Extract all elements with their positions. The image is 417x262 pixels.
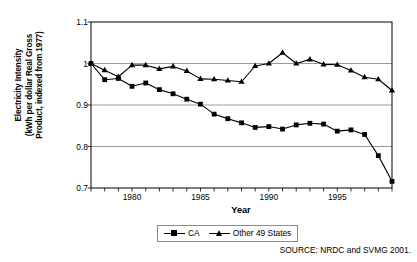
- x-tick-label: 1990: [260, 192, 279, 202]
- data-point-marker: [349, 128, 354, 133]
- data-point-marker: [253, 125, 258, 130]
- data-point-marker: [130, 84, 135, 89]
- x-tick-label: 1995: [328, 192, 347, 202]
- legend-marker-square-icon: [164, 229, 185, 238]
- data-point-marker: [307, 56, 313, 61]
- data-point-marker: [102, 77, 107, 82]
- legend-item-other-49-states[interactable]: Other 49 States: [209, 228, 292, 238]
- data-point-marker: [321, 122, 326, 127]
- data-point-marker: [279, 49, 285, 54]
- data-point-marker: [335, 129, 340, 134]
- data-point-marker: [225, 116, 230, 121]
- data-point-marker: [334, 61, 340, 66]
- source-note: SOURCE: NRDC and SVMG 2001.: [280, 245, 411, 255]
- x-axis-tick-labels: 1980 1985 1990 1995: [0, 192, 417, 206]
- x-tick-label: 1980: [123, 192, 142, 202]
- legend-item-ca[interactable]: CA: [164, 228, 200, 238]
- data-point-marker: [280, 127, 285, 132]
- data-point-marker: [390, 179, 395, 184]
- chart-figure: Electricity Intensity (kWh per dollar Re…: [0, 0, 417, 262]
- data-point-marker: [211, 76, 217, 81]
- data-point-marker: [389, 87, 395, 92]
- data-point-marker: [294, 123, 299, 128]
- data-point-marker: [157, 87, 162, 92]
- plot-area: [0, 0, 417, 262]
- x-axis-label: Year: [90, 205, 392, 215]
- chart-legend: CA Other 49 States: [157, 225, 298, 242]
- data-point-marker: [376, 153, 381, 158]
- data-point-marker: [184, 97, 189, 102]
- data-point-marker: [143, 62, 149, 67]
- data-point-marker: [198, 102, 203, 107]
- data-point-marker: [212, 112, 217, 117]
- data-point-marker: [266, 60, 272, 65]
- data-point-marker: [171, 91, 176, 96]
- data-point-marker: [362, 132, 367, 137]
- legend-label: Other 49 States: [233, 228, 292, 238]
- data-point-marker: [239, 120, 244, 125]
- legend-marker-triangle-icon: [209, 229, 230, 238]
- data-point-marker: [266, 124, 271, 129]
- x-tick-label: 1985: [191, 192, 210, 202]
- legend-label: CA: [188, 228, 200, 238]
- data-point-marker: [129, 62, 135, 67]
- data-point-marker: [143, 81, 148, 86]
- data-point-marker: [308, 121, 313, 126]
